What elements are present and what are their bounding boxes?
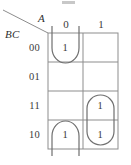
column-header-0: 0 [49,18,83,30]
row-header-10: 10 [14,129,40,140]
column-header-1: 1 [84,18,118,30]
row-header-11: 11 [14,100,40,111]
cell-value-r00c0: 1 [59,42,71,53]
cell-value-r10c1: 1 [94,129,106,140]
karnaugh-map-figure: A BC 0 1 00 01 11 10 1 1 1 1 [0,0,131,165]
row-variable-label: BC [5,28,19,40]
row-header-00: 00 [14,42,40,53]
row-header-01: 01 [14,71,40,82]
cell-value-r10c0: 1 [59,129,71,140]
column-variable-label: A [38,12,45,24]
cell-value-r11c1: 1 [94,100,106,111]
